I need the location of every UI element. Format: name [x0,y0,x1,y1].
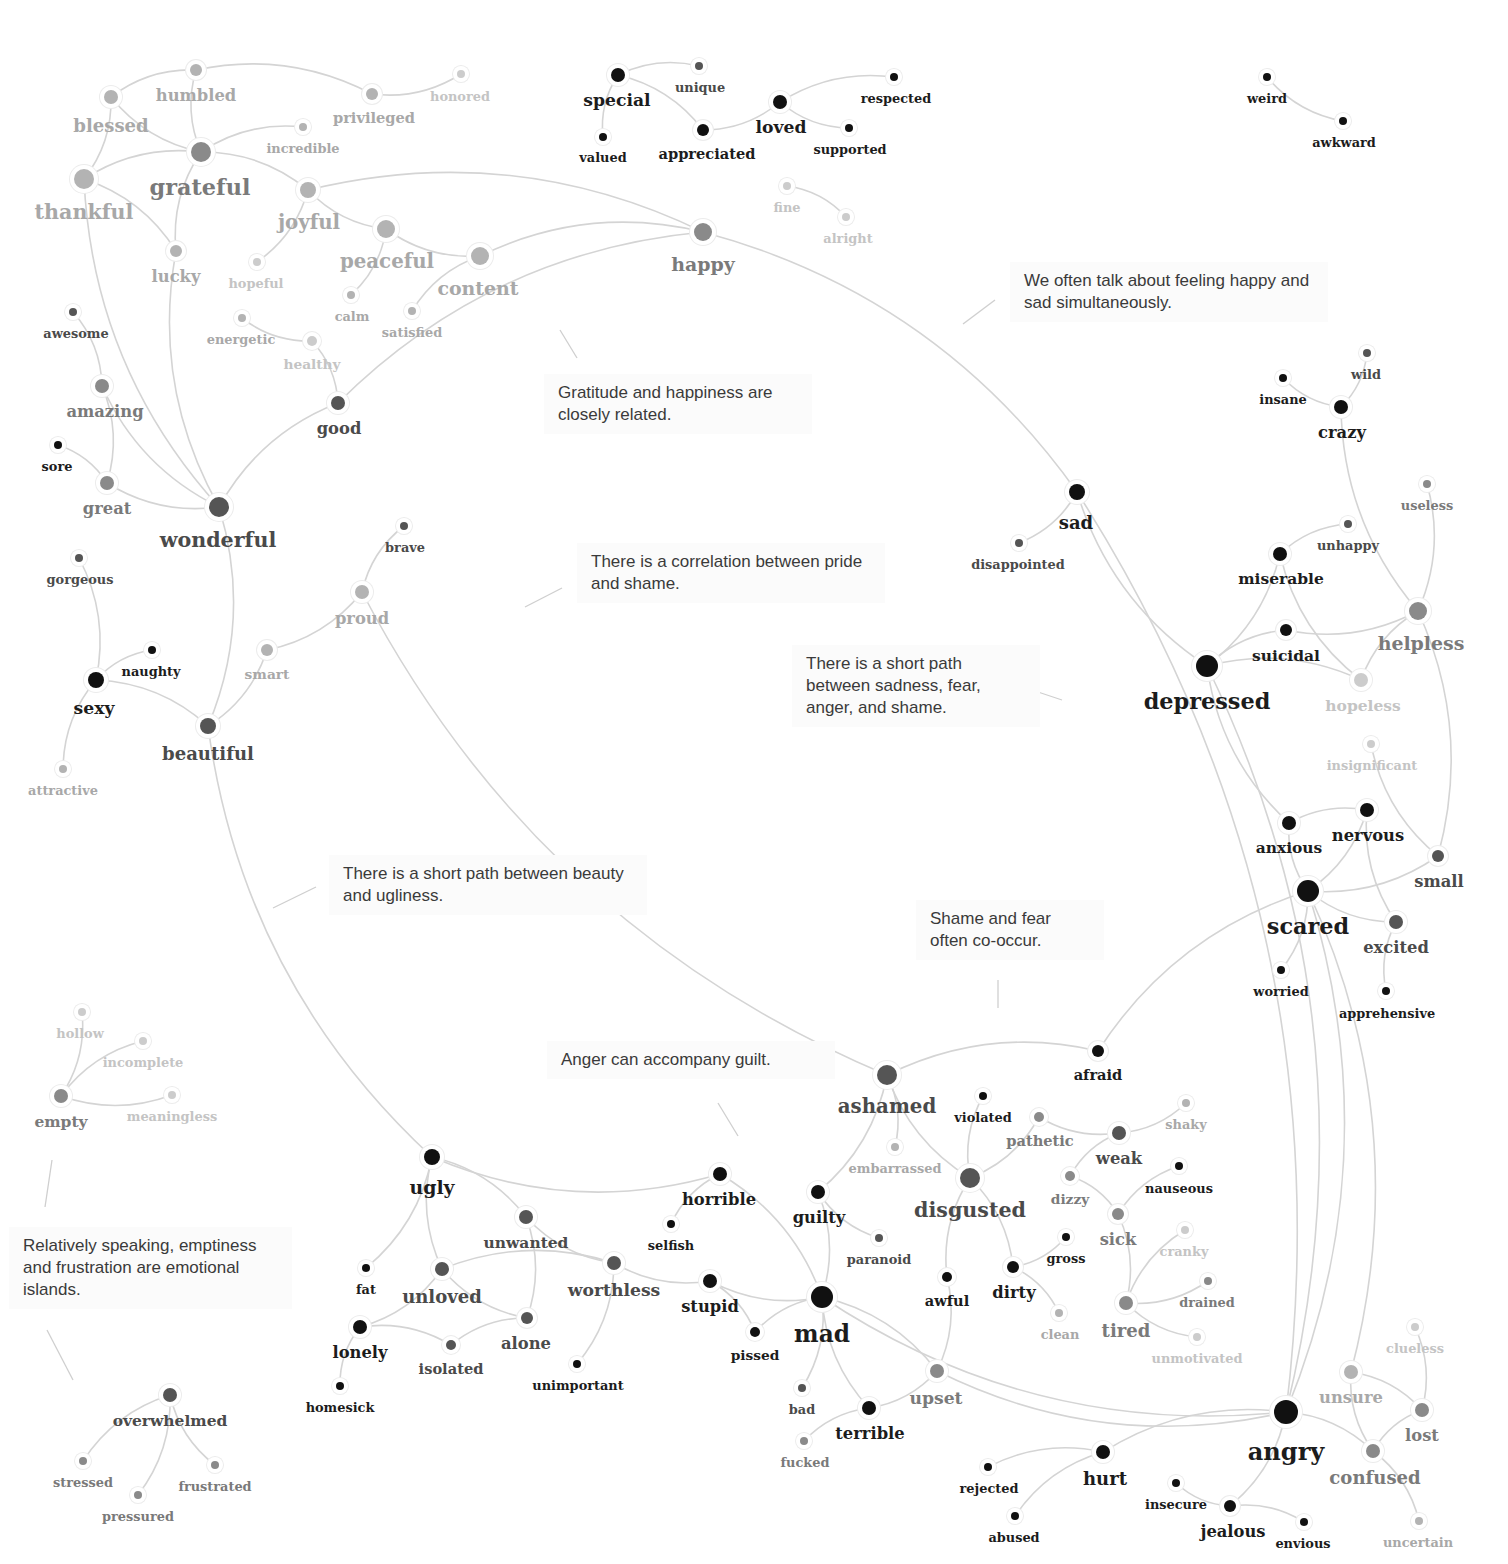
node-hopeful[interactable] [253,258,261,266]
node-valued[interactable] [599,133,607,141]
node-suicidal[interactable] [1280,624,1292,636]
node-isolated[interactable] [446,1340,456,1350]
node-stressed[interactable] [79,1457,87,1465]
node-brave[interactable] [400,522,408,530]
node-lucky[interactable] [170,245,182,257]
node-excited[interactable] [1389,915,1403,929]
node-dizzy[interactable] [1065,1171,1075,1181]
node-meaningless[interactable] [168,1091,176,1099]
node-loved[interactable] [773,95,787,109]
node-horrible[interactable] [713,1167,727,1181]
node-alone[interactable] [521,1312,533,1324]
node-small[interactable] [1432,850,1444,862]
node-weird[interactable] [1263,73,1271,81]
node-unique[interactable] [695,62,703,70]
node-weak[interactable] [1112,1126,1126,1140]
node-wild[interactable] [1363,349,1371,357]
node-incredible[interactable] [299,123,307,131]
node-insignificant[interactable] [1367,740,1375,748]
node-disappointed[interactable] [1015,539,1023,547]
node-pissed[interactable] [750,1327,760,1337]
node-sexy[interactable] [88,672,104,688]
node-abused[interactable] [1011,1512,1019,1520]
node-insecure[interactable] [1172,1479,1180,1487]
node-lonely[interactable] [353,1320,367,1334]
node-gorgeous[interactable] [75,554,83,562]
node-helpless[interactable] [1409,602,1427,620]
node-unimportant[interactable] [573,1360,581,1368]
node-smart[interactable] [261,644,273,656]
node-amazing[interactable] [95,379,109,393]
node-honored[interactable] [457,70,465,78]
node-cranky[interactable] [1181,1226,1189,1234]
node-tired[interactable] [1119,1296,1133,1310]
node-energetic[interactable] [238,314,246,322]
node-peaceful[interactable] [377,220,395,238]
node-apprehensive[interactable] [1382,987,1390,995]
node-unmotivated[interactable] [1193,1333,1201,1341]
node-awesome[interactable] [69,308,77,316]
node-grateful[interactable] [191,142,211,162]
node-bad[interactable] [798,1384,806,1392]
node-calm[interactable] [347,291,355,299]
node-awful[interactable] [942,1272,952,1282]
node-worthless[interactable] [607,1256,621,1270]
node-paranoid[interactable] [875,1234,883,1242]
node-supported[interactable] [845,124,853,132]
node-stupid[interactable] [703,1274,717,1288]
node-appreciated[interactable] [697,124,709,136]
node-unwanted[interactable] [519,1210,533,1224]
node-nervous[interactable] [1360,803,1374,817]
node-humbled[interactable] [190,64,202,76]
node-wonderful[interactable] [209,497,229,517]
node-sad[interactable] [1069,484,1085,500]
node-privileged[interactable] [366,88,378,100]
node-anxious[interactable] [1282,816,1296,830]
node-shaky[interactable] [1182,1099,1190,1107]
node-blessed[interactable] [104,90,118,104]
node-clean[interactable] [1055,1309,1063,1317]
node-sore[interactable] [54,441,62,449]
node-naughty[interactable] [148,646,156,654]
node-upset[interactable] [930,1364,944,1378]
node-violated[interactable] [979,1092,987,1100]
node-special[interactable] [611,68,625,82]
node-sick[interactable] [1112,1208,1124,1220]
node-hurt[interactable] [1096,1445,1110,1459]
node-good[interactable] [331,396,345,410]
node-lost[interactable] [1415,1403,1429,1417]
node-embarrassed[interactable] [891,1143,899,1151]
node-rejected[interactable] [984,1463,992,1471]
node-beautiful[interactable] [200,718,216,734]
node-joyful[interactable] [300,182,316,198]
node-miserable[interactable] [1273,547,1287,561]
node-jealous[interactable] [1224,1500,1236,1512]
node-empty[interactable] [54,1089,68,1103]
node-alright[interactable] [842,213,850,221]
node-useless[interactable] [1423,480,1431,488]
node-envious[interactable] [1300,1518,1308,1526]
node-confused[interactable] [1366,1444,1380,1458]
node-hopeless[interactable] [1354,673,1368,687]
node-satisfied[interactable] [408,307,416,315]
node-terrible[interactable] [862,1401,876,1415]
node-crazy[interactable] [1334,400,1348,414]
node-uncertain[interactable] [1415,1517,1423,1525]
node-happy[interactable] [694,223,712,241]
node-scared[interactable] [1297,880,1319,902]
node-hollow[interactable] [78,1008,86,1016]
node-unloved[interactable] [435,1262,449,1276]
node-worried[interactable] [1277,966,1285,974]
node-guilty[interactable] [811,1185,825,1199]
node-drained[interactable] [1204,1277,1212,1285]
node-unsure[interactable] [1344,1365,1358,1379]
node-healthy[interactable] [307,336,317,346]
node-ugly[interactable] [424,1149,440,1165]
node-ashamed[interactable] [877,1065,897,1085]
node-fine[interactable] [783,182,791,190]
node-great[interactable] [100,476,114,490]
node-mad[interactable] [811,1286,833,1308]
node-afraid[interactable] [1092,1045,1104,1057]
node-clueless[interactable] [1411,1323,1419,1331]
node-dirty[interactable] [1007,1261,1019,1273]
